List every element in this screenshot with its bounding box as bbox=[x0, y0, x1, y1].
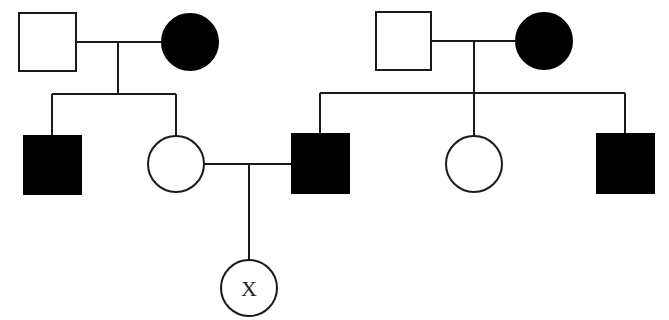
individual-label-x: X bbox=[241, 276, 257, 301]
female-unaffected-II-4 bbox=[446, 136, 502, 192]
male-affected-II-3 bbox=[292, 134, 349, 193]
male-unaffected-I-1 bbox=[19, 13, 76, 71]
male-affected-II-5 bbox=[597, 134, 654, 193]
female-unaffected-II-2 bbox=[148, 136, 204, 192]
gen1-right-couple bbox=[376, 12, 572, 136]
male-affected-II-1 bbox=[24, 136, 81, 194]
male-unaffected-I-3 bbox=[376, 12, 431, 70]
generation-3: X bbox=[221, 260, 277, 316]
sibship-gen2-right bbox=[320, 93, 625, 134]
gen1-left-couple bbox=[19, 13, 218, 94]
generation-2 bbox=[24, 134, 654, 194]
female-affected-I-4 bbox=[516, 13, 572, 69]
pedigree-diagram: X bbox=[0, 0, 669, 320]
gen2-mating bbox=[204, 164, 292, 260]
sibship-gen2-left bbox=[52, 94, 176, 136]
female-affected-I-2 bbox=[162, 14, 218, 70]
